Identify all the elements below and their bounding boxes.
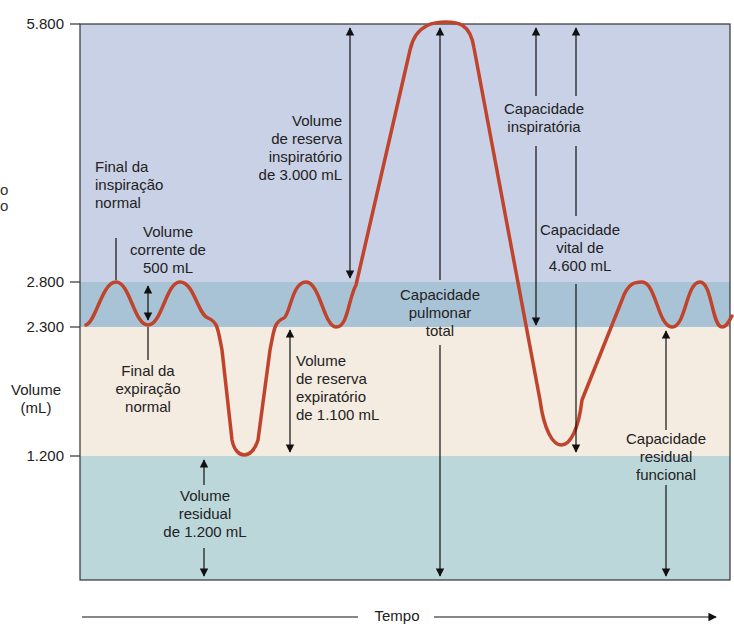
label-line: Volume [150,487,260,505]
label-line: total [388,322,492,340]
label-line: Capacidade [388,286,492,304]
label-tlc: Capacidade pulmonar total [388,286,492,340]
label-line: Volume [118,223,218,241]
y-tick-1200: 1.200 [2,447,64,465]
label-line: 500 mL [118,259,218,277]
y-axis-label-line2: (mL) [2,399,70,417]
label-line: Capacidade [528,221,632,239]
label-line: de reserva [296,370,379,388]
label-tidal-volume: Volume corrente de 500 mL [118,223,218,277]
label-line: inspiração [95,176,163,194]
label-line: Final da [95,158,163,176]
label-line: expiração [103,380,193,398]
label-rv: Volume residual de 1.200 mL [150,487,260,541]
label-line: pulmonar [388,304,492,322]
y-tick-2800: 2.800 [2,273,64,291]
label-line: de reserva [240,130,342,148]
label-erv: Volume de reserva expiratório de 1.100 m… [296,352,379,424]
y-tick-marks [70,24,80,456]
label-line: Final da [103,362,193,380]
label-irv: Volume de reserva inspiratório de 3.000 … [240,112,342,184]
label-line: normal [103,398,193,416]
label-line: funcional [614,466,718,484]
label-line: residual [614,448,718,466]
label-line: Volume [296,352,379,370]
label-line: expiratório [296,388,379,406]
label-line: 4.600 mL [528,257,632,275]
label-end-inspiration: Final da inspiração normal [95,158,163,212]
label-ic: Capacidade inspiratória [484,100,604,136]
label-line: de 1.100 mL [296,406,379,424]
label-line: de 3.000 mL [240,166,342,184]
label-line: corrente de [118,241,218,259]
y-axis-label: Volume (mL) [2,381,70,417]
label-line: Volume [240,112,342,130]
y-tick-2300: 2.300 [2,318,64,336]
label-line: normal [95,194,163,212]
margin-fragment: o [0,197,8,214]
label-line: inspiratório [240,148,342,166]
label-vc: Capacidade vital de 4.600 mL [528,221,632,275]
lung-volumes-chart: 5.800 2.800 2.300 1.200 Volume (mL) o o … [0,0,734,629]
y-axis-label-line1: Volume [2,381,70,399]
label-line: Capacidade [484,100,604,118]
chart-canvas [0,0,734,629]
label-frc: Capacidade residual funcional [614,430,718,484]
label-line: de 1.200 mL [150,523,260,541]
label-end-expiration: Final da expiração normal [103,362,193,416]
label-line: inspiratória [484,118,604,136]
label-line: residual [150,505,260,523]
y-tick-5800: 5.800 [2,15,64,33]
label-line: vital de [528,239,632,257]
margin-fragment: o [0,181,8,198]
label-line: Capacidade [614,430,718,448]
x-axis-label: Tempo [362,607,432,625]
